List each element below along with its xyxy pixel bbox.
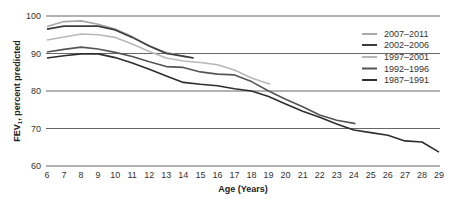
- x-tick-label: 14: [178, 170, 188, 180]
- x-tick-label: 28: [417, 170, 427, 180]
- legend-label: 2002–2006: [384, 40, 429, 50]
- gridlines: [46, 16, 440, 166]
- x-tick-label: 16: [212, 170, 222, 180]
- x-tick-label: 17: [229, 170, 239, 180]
- legend-label: 1997–2001: [384, 52, 429, 62]
- y-axis-title-rest: , percent predicted: [12, 40, 22, 121]
- series-line-1992-1996: [47, 47, 356, 124]
- y-tick-label: 90: [31, 49, 41, 59]
- x-tick-label: 21: [298, 170, 308, 180]
- x-tick-label: 25: [366, 170, 376, 180]
- y-tick-label: 60: [31, 161, 41, 171]
- x-tick-label: 13: [161, 170, 171, 180]
- x-tick-label: 6: [44, 170, 49, 180]
- series-lines: [47, 21, 439, 152]
- x-tick-label: 23: [332, 170, 342, 180]
- x-tick-label: 10: [110, 170, 120, 180]
- y-tick-label: 80: [31, 86, 41, 96]
- legend-item: 1987–1991: [362, 75, 429, 85]
- series-line-1987-1991: [47, 54, 439, 152]
- legend-label: 1992–1996: [384, 64, 429, 74]
- x-tick-label: 29: [434, 170, 444, 180]
- x-tick-label: 9: [96, 170, 101, 180]
- legend-item: 2002–2006: [362, 40, 429, 50]
- y-axis-ticks: 60708090100: [26, 11, 41, 171]
- line-chart: 60708090100 6789101112131415161718192021…: [0, 0, 460, 199]
- y-axis-title: FEV1, percent predicted: [12, 40, 23, 141]
- x-tick-label: 8: [79, 170, 84, 180]
- x-tick-label: 27: [400, 170, 410, 180]
- x-tick-label: 15: [195, 170, 205, 180]
- legend-item: 1992–1996: [362, 64, 429, 74]
- x-axis-title: Age (Years): [218, 184, 268, 194]
- x-tick-label: 7: [62, 170, 67, 180]
- y-tick-label: 100: [26, 11, 41, 21]
- x-tick-label: 12: [144, 170, 154, 180]
- y-axis-title-main: FEV: [12, 124, 22, 142]
- x-tick-label: 18: [247, 170, 257, 180]
- legend-label: 1987–1991: [384, 75, 429, 85]
- x-tick-label: 22: [315, 170, 325, 180]
- series-line-1997-2001: [47, 34, 270, 84]
- legend-label: 2007–2011: [384, 29, 428, 39]
- legend-item: 2007–2011: [362, 29, 428, 39]
- x-tick-label: 26: [383, 170, 393, 180]
- x-tick-label: 24: [349, 170, 359, 180]
- x-tick-label: 20: [281, 170, 291, 180]
- x-axis-ticks: 6789101112131415161718192021222324252627…: [44, 170, 444, 180]
- x-tick-label: 19: [264, 170, 274, 180]
- legend: 2007–20112002–20061997–20011992–19961987…: [362, 29, 429, 85]
- y-tick-label: 70: [31, 124, 41, 134]
- x-tick-label: 11: [128, 170, 137, 180]
